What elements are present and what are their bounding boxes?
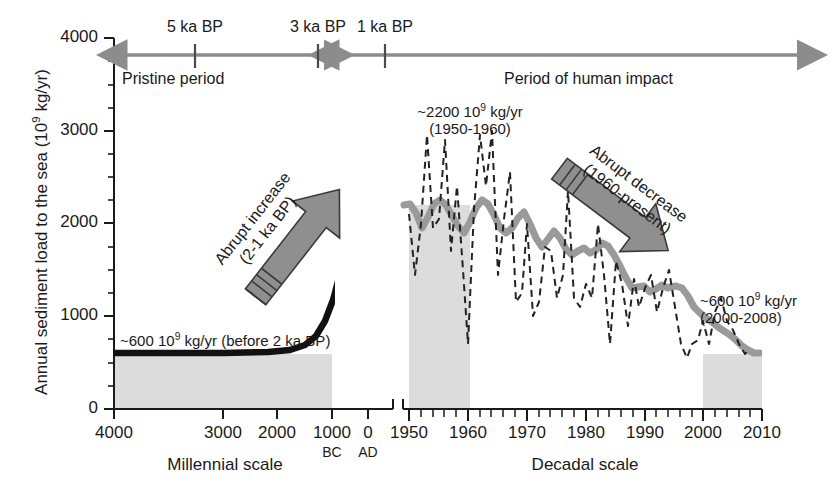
annotation-peak-unit: kg/yr: [486, 103, 523, 120]
y-axis: [104, 38, 114, 410]
band-pristine-baseline: [114, 354, 332, 409]
x-axis-label-millennial: Millennial scale: [115, 455, 335, 475]
annotation-peak-line2: (1950-1960): [380, 120, 560, 137]
timeline-label-pristine: Pristine period: [122, 70, 224, 88]
annotation-peak-value: ~2200 10: [417, 103, 480, 120]
annotation-baseline-value: ~600 10: [120, 332, 175, 349]
y-axis-label-main: Annual sediment load to the sea (10: [32, 123, 51, 395]
annotation-recent-line2: (2000-2008): [700, 309, 797, 326]
annotation-recent-line1: ~600 109 kg/yr: [700, 292, 797, 309]
annotation-peak: ~2200 109 kg/yr (1950-1960): [380, 103, 560, 138]
y-tick-2000: 2000: [36, 212, 98, 232]
timeline-mark-1ka: 1 ka BP: [340, 18, 430, 36]
timeline-label-human-impact: Period of human impact: [504, 70, 673, 88]
figure-root: Annual sediment load to the sea (109 kg/…: [0, 0, 830, 487]
annotation-baseline: ~600 109 kg/yr (before 2 ka BP): [120, 332, 330, 349]
band-2000-2010: [703, 354, 762, 409]
y-axis-label: Annual sediment load to the sea (109 kg/…: [32, 22, 52, 442]
y-tick-0: 0: [36, 398, 98, 418]
band-1950-1960: [409, 205, 470, 409]
era-label-ad: AD: [348, 444, 388, 460]
annotation-recent-value: ~600 10: [700, 292, 755, 309]
x-right-tick-2010: 2010: [727, 423, 797, 443]
timeline-bar: [124, 44, 800, 68]
x-axis-label-decadal: Decadal scale: [475, 455, 695, 475]
y-tick-3000: 3000: [36, 120, 98, 140]
x-left-tick-4000bc: 4000: [79, 423, 149, 443]
annotation-recent-unit: kg/yr: [760, 292, 797, 309]
y-axis-label-tail: kg/yr): [32, 69, 51, 116]
y-tick-1000: 1000: [36, 305, 98, 325]
timeline-mark-5ka: 5 ka BP: [150, 18, 240, 36]
annotation-baseline-tail: kg/yr (before 2 ka BP): [180, 332, 330, 349]
y-tick-4000: 4000: [36, 27, 98, 47]
annotation-peak-line1: ~2200 109 kg/yr: [380, 103, 560, 120]
annotation-recent: ~600 109 kg/yr (2000-2008): [700, 292, 797, 327]
